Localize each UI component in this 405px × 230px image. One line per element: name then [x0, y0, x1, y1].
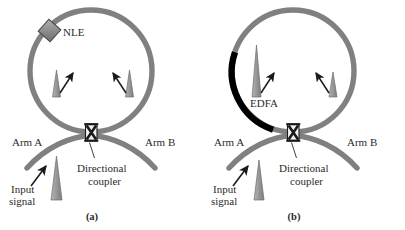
nle-label: NLE	[63, 26, 85, 38]
panel-a: NLE Arm A Arm B Input signal D	[9, 10, 175, 223]
coupler-label-line1: Directional	[279, 162, 328, 174]
pulse-ring-left	[252, 45, 261, 97]
pulse-direction-arrow-right	[316, 73, 329, 93]
optical-loop-figure: NLE Arm A Arm B Input signal D	[0, 0, 405, 230]
panel-b: EDFA Ar	[211, 10, 377, 223]
panel-a-caption: (a)	[86, 211, 99, 223]
panel-b-caption: (b)	[288, 211, 301, 223]
figure-container: NLE Arm A Arm B Input signal D	[0, 0, 405, 230]
arm-b-label: Arm B	[145, 136, 175, 148]
arm-a-label: Arm A	[12, 136, 42, 148]
pulse-ring-right	[126, 70, 134, 97]
input-signal-label-line2: signal	[9, 195, 35, 207]
pulse-ring-left	[53, 70, 61, 97]
arm-a-label: Arm A	[214, 136, 244, 148]
directional-coupler[interactable]	[286, 123, 300, 142]
coupler-label-line2: coupler	[88, 175, 121, 187]
coupler-leader-line	[90, 143, 95, 159]
pulse-input-signal	[254, 160, 264, 200]
input-signal-label-line2: signal	[211, 195, 237, 207]
pulse-direction-arrow-left	[60, 73, 73, 93]
edfa-label: EDFA	[250, 97, 278, 109]
pulse-direction-arrow-right	[113, 73, 126, 93]
input-signal-label-line1: Input	[213, 183, 236, 195]
input-signal-label-line1: Input	[11, 183, 34, 195]
coupler-label-line2: coupler	[290, 175, 323, 187]
arm-b-label: Arm B	[347, 136, 377, 148]
pulse-ring-right	[329, 72, 337, 97]
coupler-leader-line	[292, 143, 297, 159]
coupler-label-line1: Directional	[77, 162, 126, 174]
pulse-input-signal	[51, 156, 62, 200]
pulse-direction-arrow-left	[261, 73, 274, 93]
directional-coupler[interactable]	[84, 123, 98, 142]
